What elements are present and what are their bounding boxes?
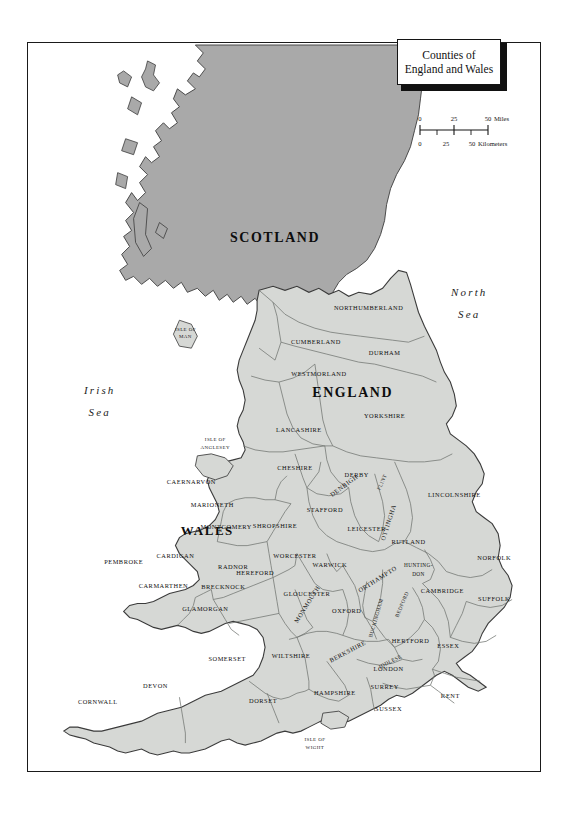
scale-miles-tick-50: 50 bbox=[485, 115, 492, 122]
country-label-england: ENGLAND bbox=[312, 385, 393, 400]
title-box: Counties of England and Wales bbox=[397, 39, 501, 85]
county-label-lancashire: LANCASHIRE bbox=[276, 426, 322, 433]
county-label-rutland: RUTLAND bbox=[391, 538, 425, 545]
isle-of-anglesey-label-line1: ISLE OF bbox=[205, 437, 226, 442]
county-label-northumberland: NORTHUMBERLAND bbox=[334, 304, 403, 311]
county-label-london: LONDON bbox=[374, 665, 404, 672]
county-label-cheshire: CHESHIRE bbox=[277, 464, 312, 471]
sea-label-north-line2: Sea bbox=[458, 308, 480, 320]
county-label-lincolnshire: LINCOLNSHIRE bbox=[428, 491, 481, 498]
county-label-suffolk: SUFFOLK bbox=[478, 595, 510, 602]
title-cartouche: Counties of England and Wales bbox=[397, 39, 507, 89]
county-label-dorset: DORSET bbox=[249, 697, 277, 704]
county-label-wiltshire: WILTSHIRE bbox=[272, 652, 311, 659]
map-title-line-1: Counties of bbox=[422, 48, 475, 62]
county-label-leicester: LEICESTER bbox=[347, 525, 386, 532]
scale-km-tick-25: 25 bbox=[443, 140, 450, 147]
county-label-hereford: HEREFORD bbox=[236, 569, 274, 576]
county-label-norfolk: NORFOLK bbox=[477, 554, 511, 561]
county-label-brecknock: BRECKNOCK bbox=[201, 583, 245, 590]
county-label-worcester: WORCESTER bbox=[273, 552, 317, 559]
sea-label-irish-line1: Irish bbox=[83, 384, 116, 396]
county-label-glamorgan: GLAMORGAN bbox=[182, 605, 228, 612]
isle-of-wight-label-line1: ISLE OF bbox=[304, 737, 325, 742]
county-label-kent: KENT bbox=[441, 692, 460, 699]
scale-km-tick-50: 50 bbox=[469, 140, 476, 147]
county-label-hertford: HERTFORD bbox=[392, 637, 430, 644]
county-label-gloucester: GLOUCESTER bbox=[284, 590, 331, 597]
scale-miles-tick-25: 25 bbox=[451, 115, 458, 122]
scale-km-tick-0: 0 bbox=[418, 140, 422, 147]
scale-bar: 0 25 50 Miles 0 25 50 Kilometers bbox=[394, 112, 514, 158]
scale-miles-tick-0: 0 bbox=[418, 115, 422, 122]
county-label-shropshire: SHROPSHIRE bbox=[253, 522, 297, 529]
isle-of-man-label-line1: ISLE OF bbox=[175, 327, 196, 332]
scale-miles-unit: Miles bbox=[494, 115, 509, 122]
county-label-hampshire: HAMPSHIRE bbox=[314, 689, 356, 696]
map-title-line-2: England and Wales bbox=[405, 62, 493, 76]
county-label-carmarthen: CARMARTHEN bbox=[139, 582, 189, 589]
sea-label-irish-line2: Sea bbox=[89, 406, 111, 418]
isle-of-man-label-line2: MAN bbox=[179, 334, 192, 339]
county-label-sussex: SUSSEX bbox=[375, 705, 402, 712]
county-label-caernarvon: CAERNARVON bbox=[167, 478, 216, 485]
county-label-radnor: RADNOR bbox=[218, 563, 248, 570]
country-label-wales: WALES bbox=[181, 523, 234, 538]
isle-of-wight-label-line2: WIGHT bbox=[306, 745, 325, 750]
county-label-yorkshire: YORKSHIRE bbox=[364, 412, 405, 419]
county-label-cornwall: CORNWALL bbox=[78, 698, 118, 705]
county-label-cardigan: CARDIGAN bbox=[156, 552, 194, 559]
county-label-huntingdon-line1: HUNTING- bbox=[404, 562, 433, 568]
county-label-marioneth: MARIONETH bbox=[191, 501, 234, 508]
county-label-oxford: OXFORD bbox=[332, 607, 361, 614]
country-label-scotland: SCOTLAND bbox=[230, 230, 320, 245]
county-label-cumberland: CUMBERLAND bbox=[291, 338, 341, 345]
county-label-pembroke: PEMBROKE bbox=[104, 558, 143, 565]
county-label-huntingdon-line2: DON bbox=[412, 571, 425, 577]
county-label-somerset: SOMERSET bbox=[208, 655, 246, 662]
isle-of-anglesey-label-line2: ANGLESEY bbox=[201, 445, 230, 450]
county-label-durham: DURHAM bbox=[369, 349, 401, 356]
county-label-devon: DEVON bbox=[143, 682, 168, 689]
county-label-warwick: WARWICK bbox=[313, 561, 348, 568]
sea-label-north-line1: North bbox=[450, 286, 488, 298]
county-label-cambridge: CAMBRIDGE bbox=[421, 587, 464, 594]
county-label-stafford: STAFFORD bbox=[307, 506, 343, 513]
scale-km-unit: Kilometers bbox=[478, 140, 508, 147]
county-label-surrey: SURREY bbox=[370, 683, 398, 690]
county-label-essex: ESSEX bbox=[437, 642, 459, 649]
county-label-westmorland: WESTMORLAND bbox=[291, 370, 346, 377]
